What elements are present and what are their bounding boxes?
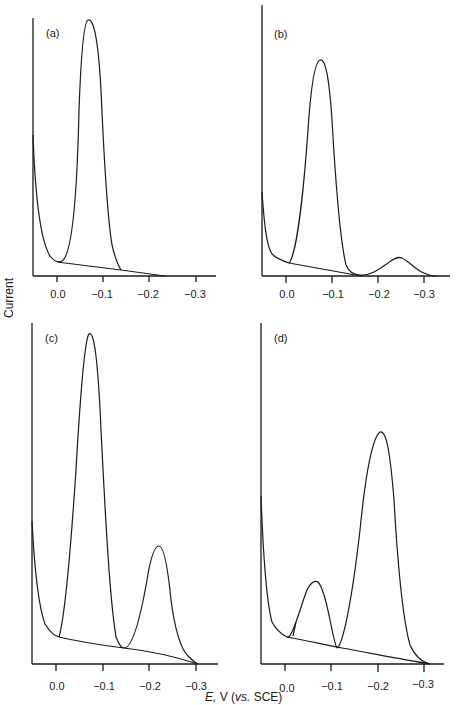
baseline xyxy=(289,263,362,276)
panel-label: (b) xyxy=(274,28,287,40)
panel-b: 0.0 −0.1 −0.2 −0.3 (b) xyxy=(262,5,450,300)
baseline xyxy=(59,637,198,664)
x-tick-label: −0.2 xyxy=(367,680,389,692)
x-tick-label: −0.1 xyxy=(322,288,344,300)
panel-label: (c) xyxy=(45,332,58,344)
x-axis-label-vs: vs. xyxy=(235,690,250,704)
x-tick-label: −0.1 xyxy=(91,288,113,300)
y-axis-label: Current xyxy=(2,277,16,318)
x-tick-label: −0.3 xyxy=(184,288,206,300)
x-tick-label: −0.1 xyxy=(321,680,343,692)
baseline xyxy=(57,262,165,276)
voltammogram-curve xyxy=(261,432,430,664)
x-tick-label: −0.3 xyxy=(413,288,435,300)
x-tick-label: 0.0 xyxy=(50,288,65,300)
x-tick-label: −0.2 xyxy=(139,680,161,692)
voltammogram-curve xyxy=(33,20,121,270)
x-tick-label: −0.3 xyxy=(412,678,434,690)
x-tick-label: −0.1 xyxy=(93,680,115,692)
x-tick-label: −0.3 xyxy=(185,680,207,692)
x-axis-label-ref: SCE) xyxy=(250,690,282,704)
voltammogram-figure: 0.0 −0.1 −0.2 −0.3 (a) 0.0 −0.1 −0.2 −0.… xyxy=(0,0,456,705)
panel-label: (d) xyxy=(274,332,287,344)
x-axis-label-symbol: E, xyxy=(205,690,216,704)
panel-label: (a) xyxy=(46,27,59,39)
x-axis-label: E, V (vs. SCE) xyxy=(205,690,282,704)
x-axis-label-unit: V ( xyxy=(216,690,235,704)
panel-a: 0.0 −0.1 −0.2 −0.3 (a) xyxy=(33,18,216,300)
voltammogram-curve xyxy=(32,334,198,664)
x-tick-label: 0.0 xyxy=(279,288,294,300)
x-tick-label: −0.2 xyxy=(137,288,159,300)
panel-d: 0.0 −0.1 −0.2 −0.3 (d) xyxy=(261,323,444,694)
voltammogram-curve xyxy=(262,60,436,276)
panel-c: 0.0 −0.1 −0.2 −0.3 (c) xyxy=(32,323,218,692)
x-tick-label: 0.0 xyxy=(49,680,64,692)
x-tick-label: −0.2 xyxy=(368,288,390,300)
